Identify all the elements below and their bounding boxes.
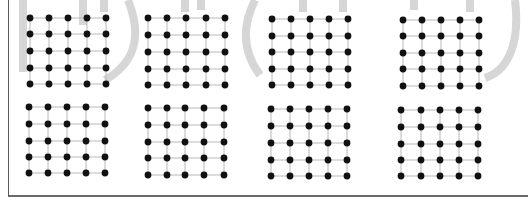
lattice-node bbox=[164, 105, 171, 112]
lattice-node bbox=[201, 155, 208, 162]
lattice-node bbox=[288, 49, 295, 56]
lattice-node bbox=[84, 81, 91, 88]
lattice-node bbox=[398, 173, 405, 180]
lattice-node bbox=[400, 50, 407, 57]
lattice-node bbox=[268, 140, 275, 147]
lattice-panel-top-1 bbox=[27, 15, 110, 88]
lattice-node bbox=[164, 49, 171, 56]
lattice-node bbox=[26, 170, 33, 177]
lattice-node bbox=[475, 124, 482, 131]
lattice-node bbox=[326, 33, 333, 40]
lattice-node bbox=[183, 66, 190, 73]
lattice-node bbox=[103, 15, 110, 22]
lattice-node bbox=[306, 157, 313, 164]
lattice-node bbox=[45, 154, 52, 161]
lattice-node bbox=[326, 66, 333, 73]
lattice-node bbox=[182, 139, 189, 146]
lattice-node bbox=[307, 49, 314, 56]
lattice-node bbox=[418, 141, 425, 148]
lattice-node bbox=[307, 33, 314, 40]
lattice-node bbox=[164, 32, 171, 39]
lattice-node bbox=[419, 83, 426, 90]
lattice-node bbox=[164, 66, 171, 73]
lattice-node bbox=[27, 48, 34, 55]
lattice-node bbox=[65, 15, 72, 22]
lattice-node bbox=[222, 15, 229, 22]
lattice-node bbox=[183, 49, 190, 56]
lattice-node bbox=[268, 123, 275, 130]
lattice-node bbox=[83, 121, 90, 128]
lattice-node bbox=[145, 82, 152, 89]
lattice-node bbox=[222, 66, 229, 73]
lattice-node bbox=[476, 17, 483, 24]
lattice-node bbox=[182, 155, 189, 162]
lattice-node bbox=[102, 104, 109, 111]
lattice-node bbox=[203, 49, 210, 56]
lattice-node bbox=[103, 81, 110, 88]
lattice-node bbox=[476, 50, 483, 57]
lattice-node bbox=[27, 15, 34, 22]
lattice-node bbox=[164, 15, 171, 22]
lattice-node bbox=[326, 49, 333, 56]
lattice-node bbox=[221, 122, 228, 129]
lattice-node bbox=[325, 140, 332, 147]
lattice-node bbox=[83, 170, 90, 177]
lattice-node bbox=[398, 157, 405, 164]
lattice-node bbox=[201, 139, 208, 146]
lattice-node bbox=[438, 83, 445, 90]
lattice-node bbox=[457, 50, 464, 57]
lattice-node bbox=[437, 124, 444, 131]
lattice-node bbox=[26, 121, 33, 128]
lattice-node bbox=[400, 83, 407, 90]
lattice-node bbox=[26, 138, 33, 145]
lattice-node bbox=[103, 65, 110, 72]
lattice-node bbox=[398, 124, 405, 131]
lattice-node bbox=[476, 33, 483, 40]
lattice-node bbox=[418, 107, 425, 114]
lattice-node bbox=[182, 172, 189, 179]
lattice-node bbox=[46, 48, 53, 55]
lattice-node bbox=[201, 105, 208, 112]
lattice-node bbox=[475, 141, 482, 148]
lattice-panel-bottom-2 bbox=[145, 105, 228, 179]
lattice-node bbox=[268, 173, 275, 180]
lattice-node bbox=[419, 33, 426, 40]
lattice-node bbox=[46, 15, 53, 22]
lattice-node bbox=[306, 106, 313, 113]
lattice-node bbox=[345, 49, 352, 56]
lattice-node bbox=[288, 16, 295, 23]
lattice-node bbox=[456, 124, 463, 131]
lattice-node bbox=[221, 139, 228, 146]
lattice-node bbox=[102, 170, 109, 177]
lattice-node bbox=[418, 157, 425, 164]
lattice-node bbox=[64, 121, 71, 128]
lattice-node bbox=[46, 31, 53, 38]
lattice-node bbox=[306, 123, 313, 130]
lattice-node bbox=[65, 65, 72, 72]
lattice-node bbox=[398, 107, 405, 114]
lattice-node bbox=[145, 66, 152, 73]
lattice-node bbox=[476, 83, 483, 90]
lattice-node bbox=[476, 66, 483, 73]
lattice-node bbox=[345, 82, 352, 89]
lattice-node bbox=[182, 105, 189, 112]
lattice-node bbox=[269, 33, 276, 40]
lattice-node bbox=[325, 173, 332, 180]
lattice-node bbox=[164, 122, 171, 129]
lattice-node bbox=[221, 155, 228, 162]
lattice-node bbox=[419, 50, 426, 57]
lattice-panel-top-2 bbox=[145, 15, 229, 89]
lattice-node bbox=[400, 17, 407, 24]
lattice-node bbox=[475, 107, 482, 114]
lattice-node bbox=[102, 138, 109, 145]
lattice-node bbox=[203, 15, 210, 22]
lattice-node bbox=[306, 173, 313, 180]
lattice-node bbox=[419, 17, 426, 24]
lattice-node bbox=[400, 33, 407, 40]
lattice-node bbox=[84, 65, 91, 72]
lattice-node bbox=[345, 33, 352, 40]
lattice-node bbox=[45, 170, 52, 177]
lattice-node bbox=[344, 123, 351, 130]
lattice-node bbox=[145, 122, 152, 129]
